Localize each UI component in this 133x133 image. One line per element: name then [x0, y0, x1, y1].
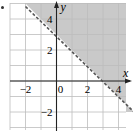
inequality-graph: xy−2024−224: [0, 0, 133, 133]
x-tick-label: 2: [85, 83, 91, 95]
x-axis-label: x: [122, 66, 129, 80]
x-tick-label: 4: [116, 83, 122, 95]
y-tick-label: −2: [41, 106, 53, 118]
y-axis-label: y: [60, 0, 67, 14]
x-tick-label: −2: [20, 83, 32, 95]
y-tick-label: 2: [47, 44, 53, 56]
y-tick-label: 4: [47, 13, 53, 25]
x-tick-label: 0: [58, 83, 64, 95]
